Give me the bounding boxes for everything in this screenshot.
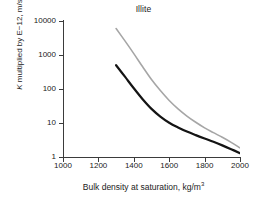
x-tick-label-1600: 1600 bbox=[149, 161, 189, 170]
y-axis-title: K multiplied by E−12, m/s bbox=[15, 0, 24, 110]
x-tick-label-1000: 1000 bbox=[43, 161, 83, 170]
x-tick-label-2000: 2000 bbox=[220, 161, 260, 170]
x-tick-label-1200: 1200 bbox=[78, 161, 118, 170]
y-tick-label-10000: 10000 bbox=[0, 16, 56, 25]
y-axis-title-rest: multiplied by E−12, m/s bbox=[15, 0, 24, 84]
x-axis-title-exponent: 3 bbox=[201, 181, 204, 187]
chart-figure: Illite 110100100010000 10001200140016001… bbox=[0, 0, 265, 202]
plot-area bbox=[63, 21, 240, 157]
chart-title: Illite bbox=[0, 4, 265, 14]
x-axis-title: Bulk density at saturation, kg/m3 bbox=[0, 181, 265, 192]
x-axis-line bbox=[63, 157, 241, 158]
y-axis-title-symbol: K bbox=[15, 84, 24, 89]
y-tick-label-100: 100 bbox=[0, 84, 56, 93]
y-tick-label-10: 10 bbox=[0, 118, 56, 127]
y-tick-label-1: 1 bbox=[0, 152, 56, 161]
x-tick-label-1400: 1400 bbox=[114, 161, 154, 170]
x-tick-label-1800: 1800 bbox=[185, 161, 225, 170]
data-curves bbox=[63, 21, 240, 157]
x-axis-title-text: Bulk density at saturation, kg/m bbox=[83, 182, 201, 192]
y-tick-label-1000: 1000 bbox=[0, 50, 56, 59]
